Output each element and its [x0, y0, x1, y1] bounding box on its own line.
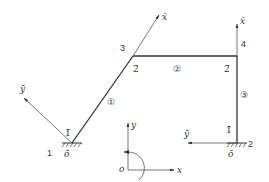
fixed-support-node2-icon	[227, 143, 247, 147]
local-o-label-m1: ō	[64, 149, 70, 159]
node-label-2: 2	[248, 139, 253, 149]
node-label-1: 1	[47, 148, 52, 158]
member-1	[72, 56, 133, 143]
rotation-arrowhead-icon	[123, 150, 129, 154]
m1-start-local-label: 1̄	[65, 128, 71, 138]
local-x-axis-member1-arrow-icon	[133, 15, 159, 56]
local-o-label-m3: ō	[228, 149, 234, 159]
global-o-label: o	[119, 164, 125, 174]
local-y-label-m3: ȳ	[183, 129, 190, 139]
global-y-label: y	[130, 120, 137, 130]
m3-start-local-label: 1̄	[226, 125, 232, 135]
node-label-4: 4	[241, 39, 246, 49]
member-label-3: ③	[240, 90, 248, 100]
m1-end-local-label: 2̄	[133, 64, 139, 74]
node-label-3: 3	[120, 43, 125, 53]
rotation-arc-icon	[128, 152, 144, 180]
local-x-label-m1: x̄	[162, 12, 167, 22]
m2-end-local-label: 2̄	[224, 64, 230, 74]
local-y-label-m1: ȳ	[19, 84, 26, 94]
global-x-label: x	[177, 165, 182, 175]
local-x-label-m3: x̄	[240, 16, 245, 26]
fixed-support-node1-icon	[62, 143, 82, 147]
member-label-2: ②	[173, 64, 181, 74]
frame-structure-diagram: 1 2 3 4 ① ② ③ 1̄ 2̄ 2̄ 1̄ x̄ ȳ ō x̄ ȳ ō …	[0, 0, 269, 182]
member-label-1: ①	[107, 97, 115, 107]
